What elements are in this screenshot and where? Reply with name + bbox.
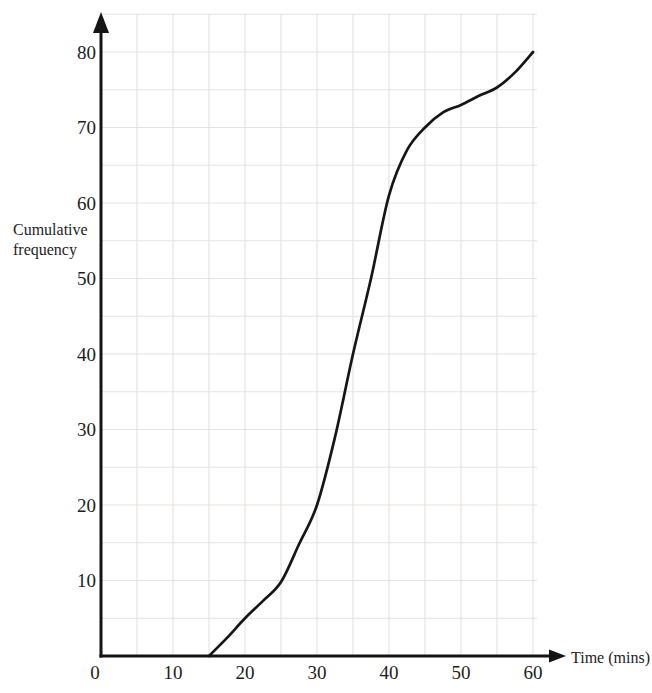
y-axis-arrow-icon [93, 12, 109, 33]
x-axis-title: Time (mins) [571, 649, 650, 667]
y-tick-label-30: 30 [77, 419, 96, 440]
y-tick-label-20: 20 [77, 495, 96, 516]
chart-canvas: 10203040506070800102030405060 [0, 0, 652, 693]
y-axis-title-line1: Cumulative [13, 220, 88, 240]
x-tick-label-0: 0 [90, 662, 100, 683]
x-tick-label-60: 60 [524, 662, 543, 683]
x-tick-label-10: 10 [164, 662, 183, 683]
y-tick-label-40: 40 [77, 344, 96, 365]
y-tick-label-50: 50 [77, 268, 96, 289]
y-axis-title-line2: frequency [13, 240, 88, 260]
cumulative-frequency-chart: Cumulative frequency Time (mins) 1020304… [0, 0, 652, 693]
x-axis-arrow-icon [549, 650, 566, 663]
y-axis-title: Cumulative frequency [13, 220, 88, 260]
y-tick-label-10: 10 [77, 570, 96, 591]
x-tick-label-50: 50 [452, 662, 471, 683]
x-tick-label-40: 40 [380, 662, 399, 683]
x-tick-label-30: 30 [308, 662, 327, 683]
y-tick-label-80: 80 [77, 42, 96, 63]
x-tick-label-20: 20 [236, 662, 255, 683]
y-tick-label-60: 60 [77, 193, 96, 214]
y-tick-label-70: 70 [77, 117, 96, 138]
